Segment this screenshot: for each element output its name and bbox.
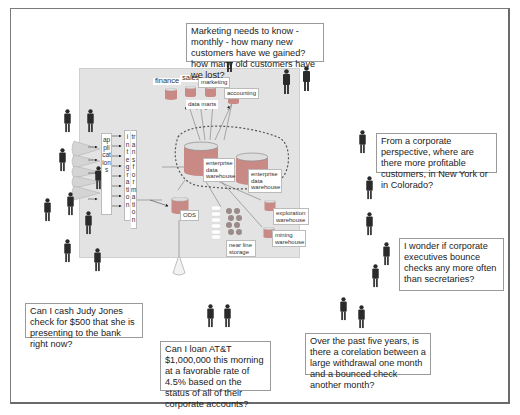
- data-mart-accounting-label: accounting: [224, 88, 259, 99]
- applications-column: applications: [101, 133, 112, 215]
- data-mart-finance-label: finance: [153, 78, 181, 85]
- callout-corporate: From a corporate perspective, where are …: [376, 133, 497, 173]
- callout-loan: Can I loan AT&T $1,000,000 this morning …: [160, 341, 271, 391]
- ods-label: ODS: [180, 210, 199, 221]
- exploration-warehouse-label: exploration warehouse: [273, 208, 309, 225]
- callout-cash-check: Can I cash Judy Jones check for $500 tha…: [25, 303, 143, 338]
- callout-executives: I wonder if corporate executives bounce …: [399, 238, 504, 291]
- integration-column: integration: [124, 130, 130, 221]
- near-line-storage-label: near line storage: [226, 240, 256, 257]
- transformation-column: transformation: [131, 130, 137, 229]
- enterprise-dw-label-1: enterprise data warehouse: [203, 158, 235, 182]
- enterprise-dw-label-2: enterprise data warehouse: [248, 169, 282, 193]
- callout-correlation: Over the past five years, is there a cor…: [305, 333, 431, 375]
- callout-marketing: Marketing needs to know - monthly - how …: [186, 23, 324, 62]
- mining-warehouse-label: mining warehouse: [272, 230, 306, 247]
- data-marts-caption: data marts: [186, 100, 218, 109]
